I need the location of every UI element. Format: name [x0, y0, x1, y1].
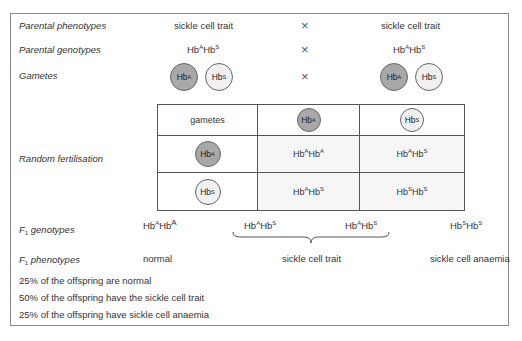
- parental-phenotypes-label: Parental phenotypes: [19, 20, 106, 31]
- curly-brace: [232, 231, 390, 245]
- row-header-A: HbA: [158, 136, 258, 173]
- punnett-cell: HbAHbS: [258, 173, 360, 211]
- punnett-cell: HbAHbA: [258, 136, 360, 173]
- parent2-phenotype: sickle cell trait: [381, 20, 440, 31]
- f1-genotypes-label: F1 genotypes: [19, 224, 75, 236]
- f1-phenotype-normal: normal: [143, 253, 172, 264]
- gamete-A-parent2: HbA: [380, 63, 408, 91]
- row-header-S: HbS: [158, 173, 258, 211]
- gamete-S-icon: HbS: [195, 179, 221, 205]
- summary-line: 50% of the offspring have the sickle cel…: [19, 292, 204, 303]
- random-fertilisation-label: Random fertilisation: [19, 153, 103, 164]
- parent1-phenotype: sickle cell trait: [174, 20, 233, 31]
- gamete-S-parent2: HbS: [415, 63, 443, 91]
- gamete-A-icon: HbA: [297, 108, 321, 132]
- gamete-S-icon: HbS: [400, 108, 424, 132]
- f1-phenotype-anaemia: sickle cell anaemia: [430, 253, 510, 264]
- parental-genotypes-label: Parental genotypes: [19, 44, 101, 55]
- punnett-corner: gametes: [158, 105, 258, 136]
- col-header-S: HbS: [360, 105, 465, 136]
- punnett-cell: HbAHbS: [360, 136, 465, 173]
- f1-genotype: HbAHbS: [244, 220, 276, 231]
- f1-genotype: HbSHbS: [450, 220, 482, 231]
- gamete-A-icon: HbA: [195, 141, 221, 167]
- gamete-A-parent1: HbA: [170, 63, 198, 91]
- f1-genotype: HbAHbS: [345, 220, 377, 231]
- f1-phenotype-trait: sickle cell trait: [282, 253, 341, 264]
- f1-genotype: HbAHbA: [143, 220, 177, 231]
- gamete-S-parent1: HbS: [205, 63, 233, 91]
- cross-symbol: ×: [301, 69, 309, 84]
- summary-line: 25% of the offspring are normal: [19, 275, 151, 286]
- cross-symbol: ×: [301, 42, 309, 57]
- col-header-A: HbA: [258, 105, 360, 136]
- f1-phenotypes-label: F1 phenotypes: [19, 254, 80, 266]
- parent1-genotype: HbAHbS: [187, 44, 219, 55]
- parent2-genotype: HbAHbS: [393, 44, 425, 55]
- punnett-cell: HbSHbS: [360, 173, 465, 211]
- punnett-square: gametes HbA HbS HbA HbAHbA HbAHbS HbS Hb…: [157, 104, 465, 211]
- summary-line: 25% of the offspring have sickle cell an…: [19, 309, 209, 320]
- cross-symbol: ×: [301, 18, 309, 33]
- gametes-label: Gametes: [19, 70, 58, 81]
